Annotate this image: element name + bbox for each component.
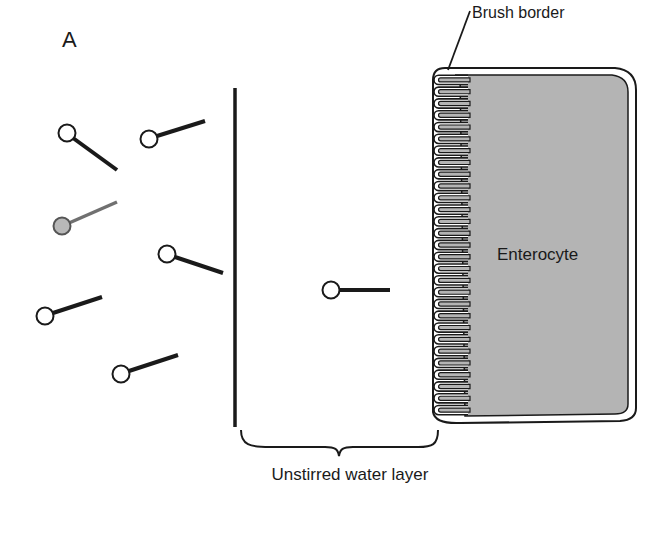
micelle-molecule-2 <box>141 121 206 148</box>
brush-border-pointer <box>448 11 470 70</box>
micelle-molecule-4 <box>159 246 224 274</box>
unstirred-water-layer-diagram <box>0 0 664 543</box>
enterocyte-label: Enterocyte <box>497 245 578 265</box>
unstirred-water-layer-label: Unstirred water layer <box>250 463 450 487</box>
lipid-molecules <box>37 121 391 383</box>
micelle-molecule-6 <box>113 355 179 383</box>
diffusing-molecule <box>323 282 391 299</box>
brush-border-microvilli <box>434 75 470 414</box>
micelle-molecule-5 <box>37 297 103 325</box>
panel-letter: A <box>62 27 77 53</box>
brush-border-label: Brush border <box>472 4 565 22</box>
micelle-molecule-1 <box>59 125 118 171</box>
uwl-brace <box>241 430 438 456</box>
gray-molecule <box>54 202 118 235</box>
